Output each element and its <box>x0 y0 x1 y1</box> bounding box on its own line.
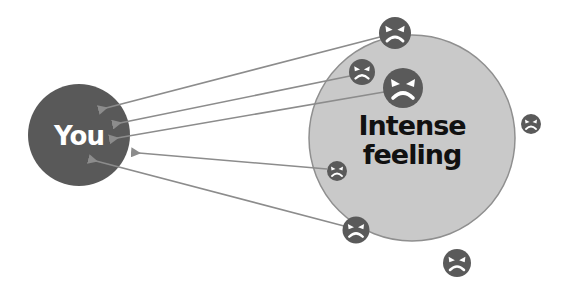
arrow-face-4 <box>139 153 327 169</box>
you-node: You <box>28 84 130 186</box>
you-label: You <box>53 121 104 151</box>
intense-feeling-label-line1: Intense <box>358 110 465 141</box>
arrow-face-5 <box>96 161 344 226</box>
angry-face-icon <box>349 59 375 85</box>
angry-face-icon <box>379 17 411 49</box>
angry-face-icon <box>383 68 423 108</box>
angry-face-icon <box>343 217 370 244</box>
intense-feeling-label-line2: feeling <box>363 139 461 170</box>
diagram-canvas: Intense feeling You <box>0 0 564 295</box>
angry-face-icon <box>443 249 471 277</box>
angry-face-icon <box>327 161 347 181</box>
angry-face-icon <box>521 114 541 134</box>
intense-feeling-node: Intense feeling <box>309 35 515 241</box>
